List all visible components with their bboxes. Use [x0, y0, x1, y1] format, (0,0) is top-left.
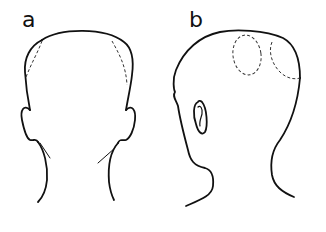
neck-right [109, 143, 118, 200]
marked-region-occipital [270, 42, 300, 79]
left-ear [21, 108, 38, 142]
marked-region-right [112, 41, 127, 85]
head-outline-back [42, 31, 133, 110]
ear-inner [198, 106, 202, 126]
ear [194, 101, 207, 134]
head-diagram: a b [0, 0, 326, 232]
marked-region-crown [230, 33, 263, 77]
right-ear [118, 108, 135, 143]
back-of-neck [271, 78, 300, 197]
panel-b: b [174, 7, 300, 206]
panel-a-label: a [22, 7, 35, 32]
neck-right-tendon [98, 148, 115, 163]
panel-b-label: b [189, 7, 203, 32]
head-outline-side [174, 30, 300, 206]
head-left-side [25, 40, 42, 110]
panel-a: a [21, 7, 135, 202]
